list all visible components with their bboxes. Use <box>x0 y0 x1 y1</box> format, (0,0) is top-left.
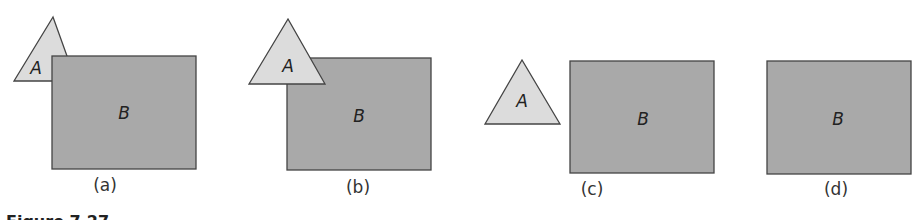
panel-c: A B <box>485 60 714 173</box>
panel-b: B A <box>249 19 431 170</box>
overlap-diagram: A B B A A B B <box>0 0 919 220</box>
figure-caption: Figure 7.27 <box>6 212 109 220</box>
caption-b: (b) <box>346 177 370 197</box>
caption-c: (c) <box>581 179 604 199</box>
caption-a: (a) <box>93 175 117 195</box>
rectangle-label: B <box>637 109 649 129</box>
rectangle-label: B <box>832 109 844 129</box>
rectangle-label: B <box>353 106 365 126</box>
panel-d: B <box>767 61 911 174</box>
triangle-label: A <box>515 91 528 111</box>
rectangle-label: B <box>118 103 130 123</box>
panel-a: A B <box>14 17 196 169</box>
caption-d: (d) <box>824 179 848 199</box>
triangle-label: A <box>29 58 42 78</box>
triangle-label: A <box>281 56 294 76</box>
